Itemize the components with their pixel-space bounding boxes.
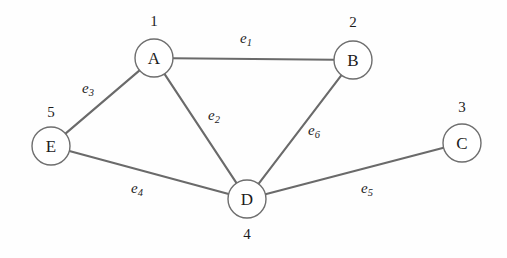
graph-node-label-D: D <box>241 190 253 209</box>
graph-node-number-B: 2 <box>349 14 357 30</box>
edge-label-subscript-e3: 3 <box>88 87 94 98</box>
edge-label-subscript-e4: 4 <box>138 187 144 198</box>
graph-node-label-C: C <box>456 134 467 153</box>
graph-edge-label-e3: e3 <box>82 80 94 98</box>
graph-edge-label-e1: e1 <box>240 30 252 48</box>
graph-edge-e2 <box>164 74 236 183</box>
graph-node-label-A: A <box>148 49 161 68</box>
edge-labels-layer: e1e2e3e4e5e6 <box>82 30 373 198</box>
graph-edge-e6 <box>259 75 342 184</box>
graph-edge-label-e5: e5 <box>361 180 373 198</box>
nodes-layer: ABCDE <box>32 39 481 218</box>
graph-node-number-C: 3 <box>458 99 466 115</box>
graph-edge-label-e6: e6 <box>308 122 321 140</box>
graph-edge-e1 <box>173 58 334 60</box>
graph-diagram-canvas: ABCDE e1e2e3e4e5e6 12345 <box>0 0 507 258</box>
graph-node-label-E: E <box>46 137 56 156</box>
edge-label-subscript-e5: 5 <box>368 187 373 198</box>
edge-label-subscript-e6: 6 <box>315 129 321 140</box>
graph-node-label-B: B <box>347 51 358 70</box>
edge-label-subscript-e2: 2 <box>215 114 221 125</box>
edges-layer <box>65 58 443 194</box>
graph-node-number-A: 1 <box>150 13 158 29</box>
edge-label-subscript-e1: 1 <box>247 37 252 48</box>
graph-edge-e5 <box>265 148 443 194</box>
graph-node-number-D: 4 <box>243 226 251 242</box>
graph-edge-label-e4: e4 <box>131 180 144 198</box>
graph-edge-e3 <box>65 70 139 133</box>
graph-edge-e4 <box>69 151 228 194</box>
graph-node-number-E: 5 <box>47 104 55 120</box>
graph-svg: ABCDE e1e2e3e4e5e6 12345 <box>0 0 507 258</box>
graph-edge-label-e2: e2 <box>208 107 221 125</box>
